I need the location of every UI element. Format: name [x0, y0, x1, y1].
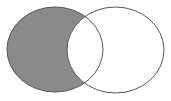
venn-diagram [0, 0, 171, 101]
